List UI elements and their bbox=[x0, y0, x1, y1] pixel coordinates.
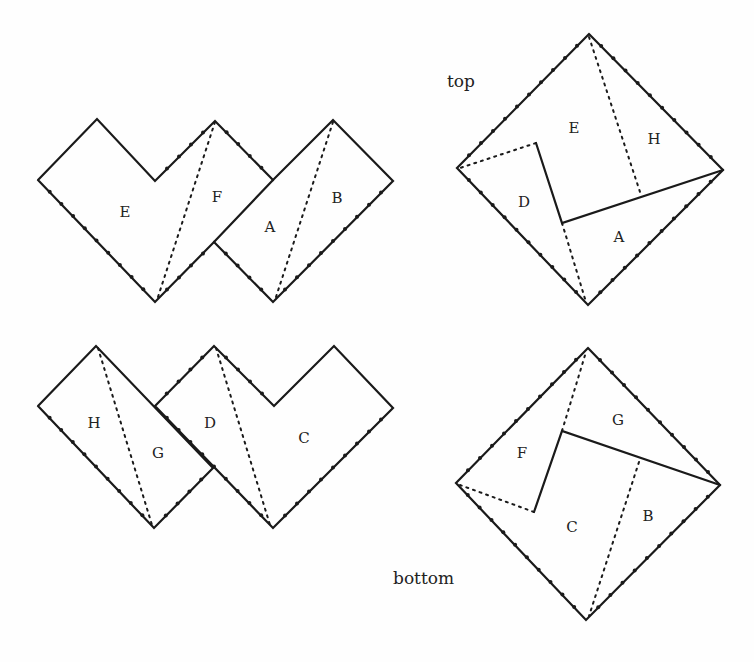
folding-diagram: EFABEHDAHGDCGFCB top bottom bbox=[0, 0, 754, 662]
fold-edge bbox=[536, 143, 723, 223]
edge-tick-dot bbox=[525, 555, 529, 559]
edge-tick-dot bbox=[562, 370, 566, 374]
edge-tick-dot bbox=[670, 433, 674, 437]
edge-tick-dot bbox=[165, 167, 169, 171]
edge-tick-dot bbox=[560, 593, 564, 597]
edge-tick-dot bbox=[633, 568, 637, 572]
edge-tick-dot bbox=[539, 80, 543, 84]
edge-tick-dot bbox=[490, 444, 494, 448]
edge-tick-dot bbox=[622, 383, 626, 387]
edge-tick-dot bbox=[165, 288, 169, 292]
edge-tick-dot bbox=[307, 263, 311, 267]
edge-tick-dot bbox=[224, 252, 228, 256]
edge-tick-dot bbox=[694, 458, 698, 462]
edge-tick-dot bbox=[551, 68, 555, 72]
edge-tick-dot bbox=[189, 264, 193, 268]
edge-tick-dot bbox=[200, 452, 204, 456]
edge-tick-dot bbox=[141, 287, 145, 291]
edge-tick-dot bbox=[709, 155, 713, 159]
edge-tick-dot bbox=[130, 275, 134, 279]
edge-tick-dot bbox=[236, 264, 240, 268]
edge-tick-dot bbox=[200, 356, 204, 360]
region-label-c: C bbox=[298, 429, 309, 447]
edge-tick-dot bbox=[189, 143, 193, 147]
edge-tick-dot bbox=[59, 428, 63, 432]
region-label-a: A bbox=[613, 228, 625, 246]
edge-tick-dot bbox=[224, 477, 228, 481]
edge-tick-dot bbox=[177, 428, 181, 432]
edge-tick-dot bbox=[225, 130, 229, 134]
edge-tick-dot bbox=[694, 507, 698, 511]
edge-tick-dot bbox=[672, 217, 676, 221]
edge-tick-dot bbox=[550, 265, 554, 269]
edge-tick-dot bbox=[177, 276, 181, 280]
edge-tick-dot bbox=[48, 190, 52, 194]
edge-tick-dot bbox=[259, 288, 263, 292]
edge-tick-dot bbox=[283, 514, 287, 518]
edge-tick-dot bbox=[331, 239, 335, 243]
edge-tick-dot bbox=[295, 502, 299, 506]
edge-tick-dot bbox=[355, 215, 359, 219]
edge-tick-dot bbox=[466, 493, 470, 497]
edge-tick-dot bbox=[188, 440, 192, 444]
edge-tick-dot bbox=[501, 530, 505, 534]
edge-tick-dot bbox=[177, 380, 181, 384]
edge-tick-dot bbox=[538, 395, 542, 399]
edge-tick-dot bbox=[466, 468, 470, 472]
edge-tick-dot bbox=[503, 117, 507, 121]
edge-tick-dot bbox=[212, 465, 216, 469]
edge-tick-dot bbox=[514, 419, 518, 423]
fold-edge bbox=[38, 119, 393, 302]
edge-tick-dot bbox=[247, 276, 251, 280]
region-label-d: D bbox=[518, 193, 530, 211]
edge-tick-dot bbox=[83, 226, 87, 230]
edge-tick-dot bbox=[165, 392, 169, 396]
edge-tick-dot bbox=[623, 266, 627, 270]
edge-tick-dot bbox=[95, 239, 99, 243]
edge-tick-dot bbox=[621, 581, 625, 585]
edge-tick-dot bbox=[106, 251, 110, 255]
region-label-d: D bbox=[204, 414, 216, 432]
edge-tick-dot bbox=[248, 380, 252, 384]
edge-tick-dot bbox=[634, 395, 638, 399]
edge-tick-dot bbox=[538, 253, 542, 257]
caption-top: top bbox=[447, 71, 475, 91]
edge-tick-dot bbox=[513, 543, 517, 547]
edge-tick-dot bbox=[201, 252, 205, 256]
edge-tick-dot bbox=[467, 153, 471, 157]
edge-tick-dot bbox=[503, 215, 507, 219]
edge-tick-dot bbox=[248, 154, 252, 158]
edge-tick-dot bbox=[537, 568, 541, 572]
edge-tick-dot bbox=[515, 105, 519, 109]
edge-tick-dot bbox=[526, 407, 530, 411]
net-top-left: EFAB bbox=[38, 119, 393, 302]
edge-tick-dot bbox=[319, 478, 323, 482]
fold-edge bbox=[456, 348, 720, 620]
edge-tick-dot bbox=[599, 44, 603, 48]
edge-tick-dot bbox=[658, 420, 662, 424]
region-label-b: B bbox=[331, 189, 342, 207]
crease-line bbox=[460, 143, 536, 168]
edge-tick-dot bbox=[343, 227, 347, 231]
edge-tick-dot bbox=[379, 418, 383, 422]
fold-edge bbox=[155, 346, 393, 528]
edge-tick-dot bbox=[187, 490, 191, 494]
edge-tick-dot bbox=[598, 358, 602, 362]
edge-tick-dot bbox=[71, 440, 75, 444]
edge-tick-dot bbox=[697, 143, 701, 147]
edge-tick-dot bbox=[610, 370, 614, 374]
edge-tick-dot bbox=[563, 56, 567, 60]
edge-tick-dot bbox=[479, 190, 483, 194]
edge-tick-dot bbox=[283, 287, 287, 291]
edge-tick-dot bbox=[48, 416, 52, 420]
region-label-c: C bbox=[566, 518, 577, 536]
edge-tick-dot bbox=[624, 69, 628, 73]
edge-tick-dot bbox=[706, 495, 710, 499]
region-label-e: E bbox=[120, 203, 131, 221]
edge-tick-dot bbox=[201, 131, 205, 135]
edge-tick-dot bbox=[177, 155, 181, 159]
edge-tick-dot bbox=[550, 382, 554, 386]
edge-tick-dot bbox=[236, 489, 240, 493]
edge-tick-dot bbox=[165, 416, 169, 420]
edge-tick-dot bbox=[129, 501, 133, 505]
